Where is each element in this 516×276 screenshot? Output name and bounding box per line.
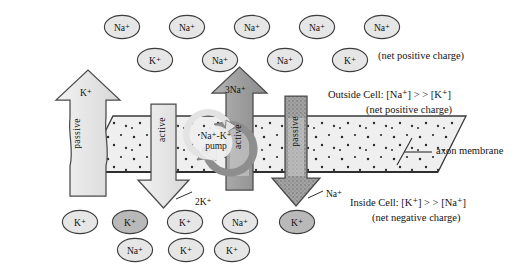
annotation-inside-net-charge: (net negative charge) [372,212,460,223]
ion-inside-2[interactable]: K⁺ [166,209,204,235]
ion-label: K⁺ [278,209,316,235]
annotation-outside-net-charge-top: (net positive charge) [378,50,464,61]
channel-transport-label-passive-na-in: passive [290,116,304,147]
ion-label: K⁺ [61,209,99,235]
ion-label: K⁺ [166,209,204,235]
annotation-outside-cell-concentration: Outside Cell: [Na⁺] > > [K⁺] [328,88,451,100]
passive-na-in-leader [308,191,323,198]
ion-label: Na⁺ [201,47,239,73]
ion-label: Na⁺ [363,14,401,40]
channel-transport-label-active-k-in: active [157,117,171,142]
ion-outside-5[interactable]: K⁺ [136,47,174,73]
ion-label: Na⁺ [116,237,154,263]
ion-label: K⁺ [136,47,174,73]
channel-transport-label-passive-k-out: passive [72,118,86,149]
ion-outside-6[interactable]: Na⁺ [201,47,239,73]
channel-ion-label-passive-k-out: K⁺ [80,87,92,98]
axon-membrane-label: axon membrane [436,145,503,156]
channel-ion-label-active-k-in: 2K⁺ [195,196,212,207]
channel-ion-label-active-na-out: 3Na⁺ [225,84,246,95]
ion-inside-5[interactable]: Na⁺ [116,237,154,263]
ion-label: Na⁺ [233,14,271,40]
ion-label: Na⁺ [221,209,259,235]
ion-label: Na⁺ [168,14,206,40]
ion-label: K⁺ [213,237,251,263]
ion-inside-7[interactable]: K⁺ [213,237,251,263]
ion-inside-0[interactable]: K⁺ [61,209,99,235]
annotation-outside-net-charge: (net positive charge) [366,104,452,115]
ion-outside-3[interactable]: Na⁺ [298,14,336,40]
ion-inside-3[interactable]: Na⁺ [221,209,259,235]
ion-outside-1[interactable]: Na⁺ [168,14,206,40]
annotation-inside-cell-concentration: Inside Cell: [K⁺] > > [Na⁺] [350,196,466,208]
ion-inside-4[interactable]: K⁺ [278,209,316,235]
diagram-canvas: K⁺ passive 2K⁺ active 3Na⁺ active Na⁺ pa… [0,0,516,276]
ion-outside-4[interactable]: Na⁺ [363,14,401,40]
ion-label: Na⁺ [266,47,304,73]
ion-outside-2[interactable]: Na⁺ [233,14,271,40]
ion-label: Na⁺ [298,14,336,40]
ion-outside-7[interactable]: Na⁺ [266,47,304,73]
ion-inside-6[interactable]: K⁺ [167,237,205,263]
ion-outside-0[interactable]: Na⁺ [103,14,141,40]
ion-outside-8[interactable]: K⁺ [331,47,369,73]
ion-label: Na⁺ [103,14,141,40]
ion-label: K⁺ [331,47,369,73]
ion-inside-1[interactable]: K⁺ [111,209,149,235]
active-k-in-leader [176,192,192,199]
ion-label: K⁺ [111,209,149,235]
ion-label: K⁺ [167,237,205,263]
channel-ion-label-passive-na-in: Na⁺ [326,188,342,199]
pump-label: Na⁺-K⁺ pump [190,132,242,152]
